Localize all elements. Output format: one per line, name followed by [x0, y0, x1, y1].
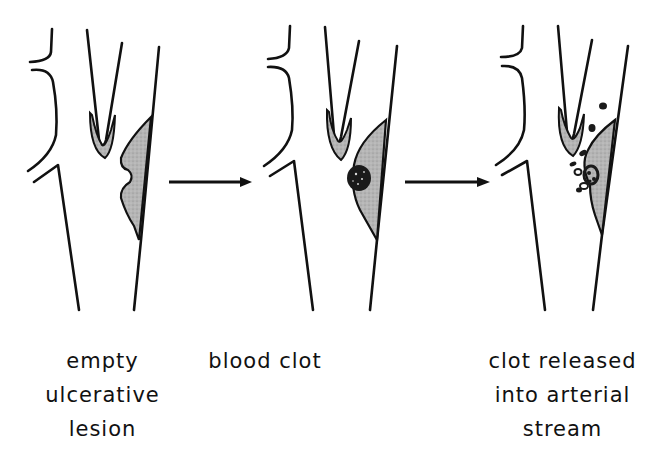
arrow-2 [405, 177, 490, 187]
branch-plaque-2 [327, 110, 351, 160]
blood-clot [347, 165, 371, 191]
label-line: empty [20, 344, 185, 378]
label-empty-ulcerative-lesion: empty ulcerative lesion [20, 344, 185, 446]
label-line: blood clot [190, 344, 340, 378]
label-line: stream [470, 412, 655, 446]
label-line: into arterial [470, 378, 655, 412]
label-line: ulcerative [20, 378, 185, 412]
label-line: lesion [20, 412, 185, 446]
branch-plaque-3 [559, 108, 584, 156]
branch-plaque-1 [90, 113, 115, 158]
label-clot-released: clot released into arterial stream [470, 344, 655, 446]
label-line: clot released [470, 344, 655, 378]
label-blood-clot: blood clot [190, 344, 340, 378]
arrow-1 [169, 177, 252, 187]
